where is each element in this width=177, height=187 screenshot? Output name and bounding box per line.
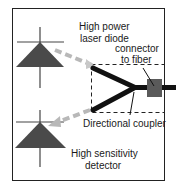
laser-diode-icon — [16, 27, 64, 88]
coupler-label: Directional coupler — [83, 118, 166, 129]
detector-label-line2: detector — [85, 160, 121, 171]
directional-coupler-icon — [93, 68, 176, 110]
laser-diode-label-line1: High power — [79, 21, 130, 32]
fiber-connector-icon — [147, 79, 162, 97]
detector-label-line1: High sensitivity — [71, 148, 138, 159]
connector-label-line2: to fiber — [121, 54, 152, 65]
connector-label-line1: connector — [115, 43, 159, 54]
coupler-leader-line — [130, 92, 134, 115]
